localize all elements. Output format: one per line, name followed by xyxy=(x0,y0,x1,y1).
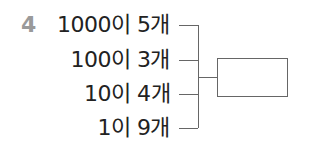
problem-number: 4 xyxy=(21,12,36,38)
row-hundreds: 100이 3개 xyxy=(71,47,170,73)
connector-stub xyxy=(179,128,198,129)
connector-stub xyxy=(179,60,198,61)
connector-to-box xyxy=(198,77,217,78)
row-tens: 10이 4개 xyxy=(84,81,170,107)
row-ones: 1이 9개 xyxy=(98,115,171,141)
connector-stub xyxy=(179,94,198,95)
row-thousands: 1000이 5개 xyxy=(57,12,170,38)
connector-stub xyxy=(179,25,198,26)
answer-box[interactable] xyxy=(217,58,288,97)
